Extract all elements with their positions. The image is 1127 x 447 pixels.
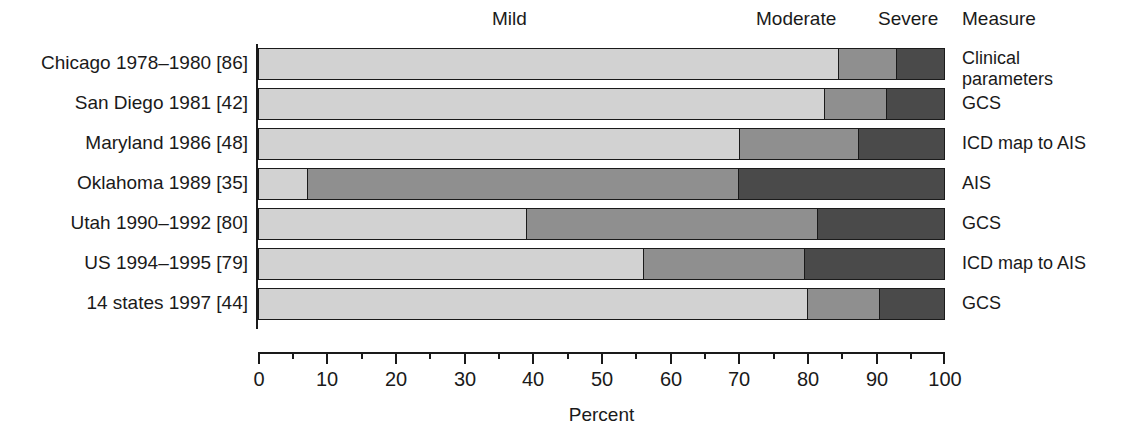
x-tick-15 <box>361 352 363 359</box>
bar-segment-moderate <box>526 209 817 239</box>
measure-value-oklahoma: AIS <box>962 173 991 194</box>
bar-segment-mild <box>259 209 526 239</box>
bar-segment-mild <box>259 169 307 199</box>
x-tick-25 <box>429 352 431 359</box>
x-tick-65 <box>704 352 706 359</box>
measure-column-header: Measure <box>962 8 1036 30</box>
measure-value-utah: GCS <box>962 213 1001 234</box>
measure-value-chicago: Clinical parameters <box>962 48 1053 90</box>
x-tick-60 <box>670 352 672 364</box>
measure-column: Measure Clinical parameters GCS ICD map … <box>962 0 1127 447</box>
table-row <box>258 48 945 80</box>
category-label-us: US 1994–1995 [79] <box>84 252 248 274</box>
x-tick-label-10: 10 <box>316 368 338 391</box>
category-axis-labels: Chicago 1978–1980 [86] San Diego 1981 [4… <box>0 0 248 447</box>
bar-segment-severe <box>804 249 944 279</box>
x-tick-label-50: 50 <box>591 368 613 391</box>
table-row <box>258 248 945 280</box>
category-label-oklahoma: Oklahoma 1989 [35] <box>77 172 248 194</box>
x-tick-45 <box>567 352 569 359</box>
bar-segment-severe <box>879 289 944 319</box>
table-row <box>258 168 945 200</box>
x-tick-75 <box>773 352 775 359</box>
stacked-bar-chart-figure: Mild Moderate Severe Chicago 1978–1980 [… <box>0 0 1127 447</box>
x-tick-30 <box>464 352 466 364</box>
bar-segment-mild <box>259 89 824 119</box>
x-tick-label-90: 90 <box>866 368 888 391</box>
category-label-14-states: 14 states 1997 [44] <box>86 292 248 314</box>
x-tick-85 <box>841 352 843 359</box>
category-label-maryland: Maryland 1986 [48] <box>85 132 248 154</box>
x-tick-20 <box>395 352 397 364</box>
x-tick-10 <box>326 352 328 364</box>
x-axis-title: Percent <box>258 404 945 426</box>
bar-segment-mild <box>259 49 838 79</box>
x-tick-label-80: 80 <box>797 368 819 391</box>
bar-segment-mild <box>259 249 643 279</box>
x-tick-40 <box>532 352 534 364</box>
measure-value-san-diego: GCS <box>962 93 1001 114</box>
x-tick-label-20: 20 <box>385 368 407 391</box>
x-tick-50 <box>601 352 603 364</box>
category-label-chicago: Chicago 1978–1980 [86] <box>41 52 248 74</box>
bar-segment-moderate <box>824 89 886 119</box>
category-label-utah: Utah 1990–1992 [80] <box>71 212 249 234</box>
x-tick-label-100: 100 <box>928 368 961 391</box>
bar-segment-severe <box>858 129 944 159</box>
plot-area: 0 10 20 30 40 50 60 70 80 90 100 Percent <box>258 0 945 447</box>
table-row <box>258 208 945 240</box>
x-tick-80 <box>807 352 809 364</box>
bar-segment-moderate <box>307 169 739 199</box>
x-tick-0 <box>258 352 260 364</box>
bar-segment-moderate <box>807 289 879 319</box>
x-tick-35 <box>498 352 500 359</box>
bar-segment-mild <box>259 289 807 319</box>
measure-value-maryland: ICD map to AIS <box>962 133 1086 154</box>
measure-value-us: ICD map to AIS <box>962 253 1086 274</box>
category-label-san-diego: San Diego 1981 [42] <box>75 92 248 114</box>
x-tick-label-70: 70 <box>728 368 750 391</box>
bar-segment-severe <box>817 209 944 239</box>
measure-value-14-states: GCS <box>962 293 1001 314</box>
x-tick-100 <box>943 352 945 364</box>
x-tick-90 <box>876 352 878 364</box>
x-tick-label-40: 40 <box>522 368 544 391</box>
bar-segment-severe <box>738 169 944 199</box>
bar-segment-moderate <box>739 129 859 159</box>
x-tick-95 <box>910 352 912 359</box>
table-row <box>258 88 945 120</box>
bar-segment-moderate <box>643 249 804 279</box>
bar-segment-moderate <box>838 49 896 79</box>
x-tick-label-0: 0 <box>253 368 264 391</box>
x-tick-label-60: 60 <box>660 368 682 391</box>
table-row <box>258 128 945 160</box>
bar-segment-severe <box>896 49 944 79</box>
x-tick-55 <box>635 352 637 359</box>
table-row <box>258 288 945 320</box>
bar-segment-severe <box>886 89 944 119</box>
x-tick-5 <box>292 352 294 359</box>
x-tick-70 <box>738 352 740 364</box>
bar-segment-mild <box>259 129 739 159</box>
x-tick-label-30: 30 <box>454 368 476 391</box>
